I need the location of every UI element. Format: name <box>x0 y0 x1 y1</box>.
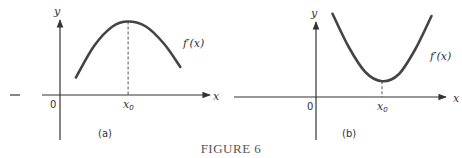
y-axis-label-b: y <box>310 7 318 20</box>
panel-b: x y 0 x0 f′(x) (b) <box>234 7 460 140</box>
panel-label-a: (a) <box>98 128 112 139</box>
x0-label-a: x0 <box>123 98 134 112</box>
curve-b <box>333 14 432 82</box>
y-axis-label-a: y <box>53 5 61 18</box>
panel-label-b: (b) <box>342 128 356 139</box>
origin-label-b: 0 <box>307 101 313 112</box>
figure-caption: FIGURE 6 <box>201 141 262 156</box>
curve-label-b: f′(x) <box>429 50 451 63</box>
figure-canvas: x y 0 x0 f′(x) (a) x y 0 x0 f′(x) (b) FI… <box>0 0 462 158</box>
x-axis-label-a: x <box>213 90 220 103</box>
x-axis-label-b: x <box>453 92 460 105</box>
curve-label-a: f′(x) <box>182 37 204 50</box>
x0-label-b: x0 <box>377 100 388 114</box>
panel-a: x y 0 x0 f′(x) (a) <box>10 5 220 140</box>
origin-label-a: 0 <box>50 99 56 110</box>
